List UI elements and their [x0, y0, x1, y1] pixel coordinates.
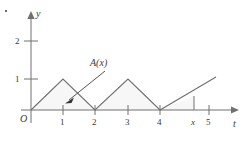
x-tick-label-1: 1: [60, 117, 65, 127]
x-axis-label: t: [233, 118, 236, 129]
x-tick-label-5: 5: [206, 117, 211, 127]
x-tick-label-3: 3: [125, 117, 130, 127]
x-tick-label-4: 4: [157, 117, 162, 127]
x-tick-label-2: 2: [92, 117, 97, 127]
x-axis-arrowhead: [231, 106, 239, 113]
area-annotation-label: A(x): [90, 57, 107, 68]
annotation-arrow-shaft: [69, 71, 105, 100]
y-tick-label-2: 2: [15, 36, 20, 46]
origin-label: O: [20, 113, 27, 124]
figure-canvas: y t O 1 2 1 2 3 4 x 5 A(x): [0, 0, 245, 143]
y-axis-arrowhead: [27, 11, 34, 19]
y-axis-label: y: [36, 8, 40, 19]
shaded-area-A-of-x: [31, 79, 194, 110]
x-tick-label-x: x: [191, 117, 195, 127]
y-tick-label-1: 1: [15, 74, 20, 84]
